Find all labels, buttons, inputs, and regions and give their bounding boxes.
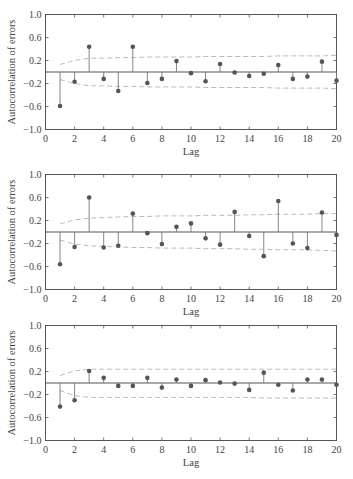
y-tick-label: −1.0 (23, 284, 41, 295)
stem-marker (276, 199, 281, 204)
stem-marker (101, 245, 106, 250)
upper-confidence-band (60, 214, 337, 224)
stem-marker (247, 74, 252, 79)
x-tick-label: 16 (273, 444, 283, 455)
y-tick-label: 0.2 (29, 366, 42, 377)
stem-marker (174, 225, 179, 230)
stem-marker (276, 382, 281, 387)
stem-marker (145, 376, 150, 381)
x-tick-label: 14 (244, 293, 254, 304)
x-tick-label: 4 (101, 293, 106, 304)
stem-marker (247, 234, 252, 239)
stem-marker (203, 378, 208, 383)
stem-marker (320, 59, 325, 64)
stem-marker (334, 78, 339, 83)
stem-marker (334, 382, 339, 387)
x-tick-label: 12 (215, 133, 225, 144)
x-tick-label: 0 (43, 133, 48, 144)
x-tick-label: 12 (215, 293, 225, 304)
stem-marker (174, 59, 179, 64)
acf-chart-2: 1.00.60.2−0.2−0.6−1.002468101214161820La… (0, 160, 353, 320)
x-tick-label: 18 (302, 133, 312, 144)
stem-marker (305, 246, 310, 251)
y-tick-label: 0.2 (29, 55, 42, 66)
lower-confidence-band (60, 391, 337, 399)
x-tick-label: 0 (43, 444, 48, 455)
stem-marker (203, 236, 208, 241)
y-tick-label: 0.6 (29, 32, 42, 43)
stem-marker (189, 221, 194, 226)
y-tick-label: −0.6 (23, 412, 41, 423)
stem-marker (261, 370, 266, 375)
acf-chart-1: 1.00.60.2−0.2−0.6−1.002468101214161820La… (0, 0, 353, 160)
stem-marker (276, 63, 281, 68)
stem-marker (101, 77, 106, 82)
x-tick-label: 18 (302, 293, 312, 304)
x-tick-label: 18 (302, 444, 312, 455)
stem-marker (145, 81, 150, 86)
stem-marker (305, 74, 310, 79)
stem-marker (116, 384, 121, 389)
stem-marker (291, 77, 296, 82)
y-tick-label: −0.6 (23, 101, 41, 112)
y-tick-label: −0.2 (23, 238, 41, 249)
x-tick-label: 14 (244, 133, 254, 144)
stem-marker (131, 44, 136, 49)
x-tick-label: 14 (244, 444, 254, 455)
y-tick-label: −0.2 (23, 389, 41, 400)
stem-marker (261, 71, 266, 76)
y-axis-title: Autocorrelation of errors (6, 20, 17, 125)
stem-marker (87, 369, 92, 374)
y-tick-label: 0.6 (29, 343, 42, 354)
y-axis-title: Autocorrelation of errors (6, 180, 17, 285)
stem-marker (58, 262, 63, 267)
stem-marker (58, 104, 63, 109)
x-tick-label: 10 (186, 293, 196, 304)
x-tick-label: 12 (215, 444, 225, 455)
y-tick-label: −0.6 (23, 261, 41, 272)
lower-confidence-band (60, 240, 337, 251)
stem-marker (232, 70, 237, 75)
stem-marker (160, 385, 165, 390)
chart-svg: 1.00.60.2−0.2−0.6−1.002468101214161820La… (0, 311, 353, 471)
stem-marker (291, 241, 296, 246)
y-tick-label: 0.2 (29, 215, 42, 226)
stem-marker (116, 89, 121, 94)
x-tick-label: 10 (186, 444, 196, 455)
x-tick-label: 4 (101, 444, 106, 455)
x-tick-label: 20 (332, 133, 342, 144)
x-tick-label: 20 (332, 293, 342, 304)
x-tick-label: 8 (159, 444, 164, 455)
stem-marker (189, 384, 194, 389)
x-tick-label: 8 (159, 293, 164, 304)
chart-svg: 1.00.60.2−0.2−0.6−1.002468101214161820La… (0, 160, 353, 320)
chart-svg: 1.00.60.2−0.2−0.6−1.002468101214161820La… (0, 0, 353, 160)
x-tick-label: 8 (159, 133, 164, 144)
stem-marker (334, 233, 339, 238)
x-tick-label: 2 (72, 133, 77, 144)
upper-confidence-band (60, 369, 337, 375)
stem-marker (189, 71, 194, 76)
stem-marker (203, 79, 208, 84)
y-tick-label: 1.0 (29, 169, 42, 180)
stem-marker (320, 210, 325, 215)
stem-marker (116, 244, 121, 249)
x-tick-label: 2 (72, 293, 77, 304)
x-tick-label: 16 (273, 133, 283, 144)
stem-marker (174, 377, 179, 382)
x-tick-label: 10 (186, 133, 196, 144)
y-tick-label: −1.0 (23, 124, 41, 135)
stem-marker (232, 381, 237, 386)
stem-marker (101, 376, 106, 381)
stem-marker (131, 211, 136, 216)
stem-marker (305, 377, 310, 382)
x-tick-label: 20 (332, 444, 342, 455)
stem-marker (87, 44, 92, 49)
stem-marker (218, 380, 223, 385)
y-tick-label: −1.0 (23, 435, 41, 446)
stem-marker (72, 245, 77, 250)
stem-marker (232, 210, 237, 215)
x-tick-label: 6 (130, 444, 135, 455)
x-tick-label: 4 (101, 133, 106, 144)
acf-chart-3: 1.00.60.2−0.2−0.6−1.002468101214161820La… (0, 311, 353, 471)
